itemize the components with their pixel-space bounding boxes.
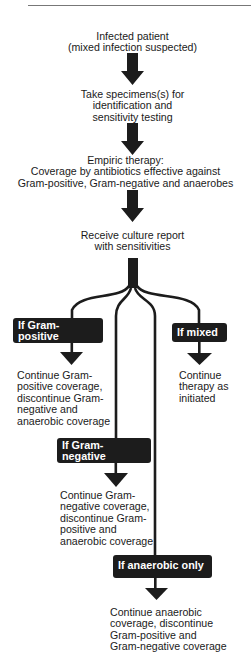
step-culture-report: Receive culture report with sensitivitie…: [40, 230, 225, 253]
arrow-down-icon: [121, 190, 144, 222]
arrowhead-icon: [145, 588, 168, 600]
condition-text: If mixed: [177, 327, 222, 338]
condition-gram-positive: If Gram-positive only: [13, 318, 103, 343]
condition-gram-negative: If Gram-negative only: [57, 438, 151, 463]
condition-text: only: [62, 463, 146, 474]
arrowhead-icon: [187, 353, 212, 365]
condition-text: If Gram-negative: [62, 440, 146, 463]
step-text: (mixed infection suspected): [40, 42, 225, 53]
step-text: Gram-positive, Gram-negative and anaerob…: [0, 178, 251, 189]
outcome-text: Gram-negative coverage: [110, 641, 250, 652]
arrowhead-icon: [104, 473, 128, 487]
step-empiric-therapy: Empiric therapy: Coverage by antibiotics…: [0, 155, 251, 189]
outcome-anaerobic: Continue anaerobic coverage, discontinue…: [110, 607, 250, 653]
outcome-text: anaerobic coverage: [60, 536, 155, 547]
outcome-text: negative and: [17, 404, 117, 415]
step-text: with sensitivities: [40, 241, 225, 252]
outcome-mixed: Continue therapy as initiated: [179, 370, 249, 404]
outcome-gram-negative: Continue Gram- negative coverage, discon…: [60, 490, 155, 547]
condition-mixed: If mixed: [172, 323, 227, 342]
outcome-text: anaerobic coverage: [17, 416, 117, 427]
step-text: sensitivity testing: [40, 112, 225, 123]
block-arrows: [121, 53, 144, 222]
condition-text: If anaerobic only: [118, 560, 207, 571]
outcome-text: initiated: [179, 393, 249, 404]
arrow-down-icon: [121, 53, 144, 85]
outcome-gram-positive: Continue Gram- positive coverage, discon…: [17, 370, 117, 427]
arrow-down-icon: [121, 123, 144, 155]
condition-text: If Gram-positive: [18, 320, 98, 343]
condition-text: only: [18, 343, 98, 354]
step-start: Infected patient (mixed infection suspec…: [40, 31, 225, 54]
step-specimens: Take specimens(s) for identification and…: [40, 89, 225, 123]
outcome-text: positive and: [60, 524, 155, 535]
condition-anaerobic: If anaerobic only: [113, 555, 212, 578]
